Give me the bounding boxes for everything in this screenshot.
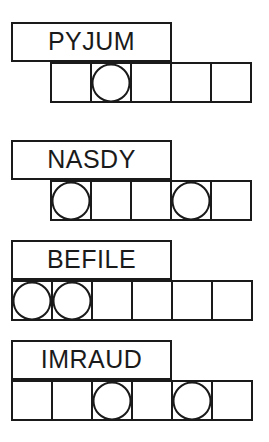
word-label-text: PYJUM — [48, 29, 135, 54]
answer-grid — [11, 380, 253, 421]
answer-grid — [50, 180, 252, 221]
answer-cell[interactable] — [211, 280, 253, 321]
answer-cell[interactable] — [91, 280, 133, 321]
answer-cell[interactable] — [211, 380, 253, 421]
answer-cell[interactable] — [130, 62, 172, 103]
answer-grid — [11, 280, 253, 321]
highlight-circle-icon — [172, 181, 211, 220]
answer-cell[interactable] — [171, 280, 213, 321]
answer-cell[interactable] — [170, 62, 212, 103]
answer-cell[interactable] — [11, 380, 53, 421]
answer-cell[interactable] — [51, 280, 93, 321]
word-label-box: NASDY — [11, 140, 172, 180]
answer-cell[interactable] — [11, 280, 53, 321]
highlight-circle-icon — [173, 381, 212, 420]
answer-cell[interactable] — [131, 280, 173, 321]
answer-cell[interactable] — [90, 180, 132, 221]
highlight-circle-icon — [53, 281, 92, 320]
word-label-box: IMRAUD — [11, 340, 172, 380]
answer-grid — [50, 62, 252, 103]
answer-cell[interactable] — [210, 180, 252, 221]
word-label-text: BEFILE — [47, 247, 136, 272]
answer-cell[interactable] — [50, 62, 92, 103]
answer-cell[interactable] — [131, 380, 173, 421]
answer-cell[interactable] — [51, 380, 93, 421]
word-label-box: BEFILE — [11, 240, 172, 280]
answer-cell[interactable] — [170, 180, 212, 221]
highlight-circle-icon — [93, 381, 132, 420]
word-label-box: PYJUM — [11, 22, 172, 62]
word-label-text: NASDY — [47, 147, 136, 172]
answer-cell[interactable] — [210, 62, 252, 103]
highlight-circle-icon — [92, 63, 131, 102]
answer-cell[interactable] — [90, 62, 132, 103]
answer-cell[interactable] — [91, 380, 133, 421]
answer-cell[interactable] — [171, 380, 213, 421]
highlight-circle-icon — [52, 181, 91, 220]
highlight-circle-icon — [13, 281, 52, 320]
answer-cell[interactable] — [130, 180, 172, 221]
word-label-text: IMRAUD — [41, 347, 143, 372]
answer-cell[interactable] — [50, 180, 92, 221]
